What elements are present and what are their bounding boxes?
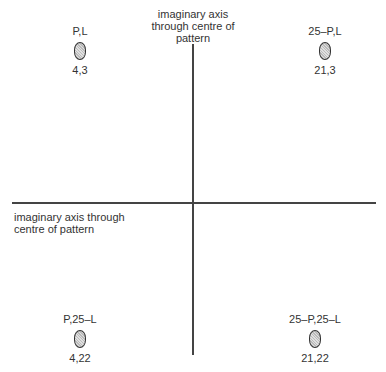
marker-name: 25–P,25–L bbox=[280, 313, 350, 325]
marker-coord: 4,22 bbox=[58, 352, 102, 364]
hatched-oval-icon bbox=[74, 330, 86, 348]
hatched-oval-icon bbox=[309, 330, 321, 348]
horizontal-axis-line bbox=[12, 202, 376, 204]
hatched-oval-icon bbox=[319, 42, 331, 60]
marker-name: P,L bbox=[60, 25, 100, 37]
horizontal-axis-label: imaginary axis through centre of pattern bbox=[14, 211, 134, 235]
marker-top-right: 25–P,L 21,3 bbox=[300, 25, 350, 76]
marker-top-left: P,L 4,3 bbox=[60, 25, 100, 76]
marker-coord: 21,3 bbox=[300, 64, 350, 76]
hatched-oval-icon bbox=[74, 42, 86, 60]
marker-coord: 21,22 bbox=[280, 352, 350, 364]
vertical-axis-label: imaginary axis through centre of pattern bbox=[143, 8, 243, 44]
vertical-axis-line bbox=[192, 44, 194, 355]
marker-name: P,25–L bbox=[58, 313, 102, 325]
marker-coord: 4,3 bbox=[60, 64, 100, 76]
marker-name: 25–P,L bbox=[300, 25, 350, 37]
marker-bottom-left: P,25–L 4,22 bbox=[58, 313, 102, 364]
marker-bottom-right: 25–P,25–L 21,22 bbox=[280, 313, 350, 364]
